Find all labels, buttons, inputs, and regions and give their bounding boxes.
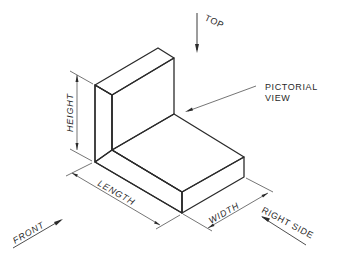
vertical-slab-front-face xyxy=(112,58,174,150)
pictorial-label-line1: PICTORIAL xyxy=(265,82,318,92)
leader-arrow-icon xyxy=(185,108,193,113)
top-label: TOP xyxy=(203,13,225,31)
top-view-arrow xyxy=(195,13,199,53)
front-label: FRONT xyxy=(11,219,47,246)
vertical-slab-left-face xyxy=(95,85,112,162)
pictorial-view-leader xyxy=(185,86,256,112)
height-label: HEIGHT xyxy=(65,92,75,132)
width-label: WIDTH xyxy=(207,200,241,225)
right-side-label: RIGHT SIDE xyxy=(260,205,315,241)
pictorial-view-diagram: HEIGHT LENGTH WIDTH TOP PICTORIAL VIEW F… xyxy=(0,0,340,265)
base-top-face xyxy=(112,114,244,192)
base-front-face-lower xyxy=(95,85,182,213)
pictorial-label-line2: VIEW xyxy=(265,93,290,103)
vertical-slab-top-face xyxy=(95,48,174,95)
arrow-down-icon xyxy=(195,44,199,53)
arrow-up-right-icon xyxy=(54,219,63,226)
